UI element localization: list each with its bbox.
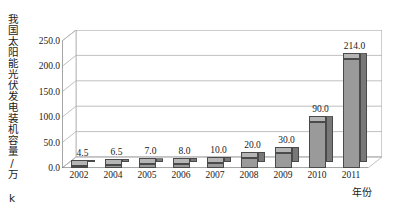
bar-front-face bbox=[71, 166, 88, 168]
bar bbox=[343, 59, 360, 168]
x-tick-label: 2008 bbox=[240, 170, 259, 180]
y-tick-label: 50.0 bbox=[20, 138, 60, 148]
bar-value-label: 214.0 bbox=[344, 41, 365, 51]
x-tick-label: 2011 bbox=[342, 170, 361, 180]
x-tick-label: 2007 bbox=[206, 170, 225, 180]
x-tick-label: 2010 bbox=[308, 170, 327, 180]
bar-side-face bbox=[360, 53, 368, 162]
bar-front-face bbox=[105, 165, 122, 168]
bar bbox=[173, 164, 190, 168]
bar-side-face bbox=[122, 159, 130, 162]
bar-side-face bbox=[292, 147, 300, 162]
bar-side-face bbox=[326, 116, 334, 162]
bar-value-label: 7.0 bbox=[145, 146, 157, 156]
x-tick-label: 2002 bbox=[70, 170, 89, 180]
bar bbox=[139, 164, 156, 168]
y-tick-label: 250.0 bbox=[20, 36, 60, 46]
bar-value-label: 30.0 bbox=[278, 135, 295, 145]
bar bbox=[105, 165, 122, 168]
bar-value-label: 10.0 bbox=[210, 145, 227, 155]
bar-value-label: 6.5 bbox=[111, 147, 123, 157]
y-tick-label: 100.0 bbox=[20, 112, 60, 122]
x-axis-tick-labels: 200220042005200620072008200920102011 bbox=[62, 170, 392, 184]
x-tick-label: 2006 bbox=[172, 170, 191, 180]
bar-series: 4.56.57.08.010.020.030.090.0214.0 bbox=[62, 30, 382, 168]
bar-side-face bbox=[224, 157, 232, 162]
bar-front-face bbox=[207, 163, 224, 168]
bar-side-face bbox=[156, 158, 164, 162]
y-axis-title: 我国太阳能光伏发电装机容量/万 kW bbox=[2, 14, 18, 190]
bar bbox=[207, 163, 224, 168]
bar-side-face bbox=[258, 152, 266, 162]
bar-front-face bbox=[139, 164, 156, 168]
x-tick-label: 2009 bbox=[274, 170, 293, 180]
bar-value-label: 90.0 bbox=[312, 104, 329, 114]
bar-front-face bbox=[309, 122, 326, 168]
chart-figure: 我国太阳能光伏发电装机容量/万 kW 0.050.0100.0150.0200.… bbox=[0, 0, 406, 204]
y-tick-label: 200.0 bbox=[20, 61, 60, 71]
bar bbox=[309, 122, 326, 168]
y-tick-label: 0.0 bbox=[20, 163, 60, 173]
x-axis-title: 年份 bbox=[352, 184, 372, 199]
bar-front-face bbox=[343, 59, 360, 168]
bar bbox=[71, 166, 88, 168]
bar-front-face bbox=[241, 158, 258, 168]
x-tick-label: 2004 bbox=[104, 170, 123, 180]
bar-value-label: 20.0 bbox=[244, 140, 261, 150]
bar-side-face bbox=[88, 160, 96, 162]
x-tick-label: 2005 bbox=[138, 170, 157, 180]
bar bbox=[241, 158, 258, 168]
bar-side-face bbox=[190, 158, 198, 162]
bar-value-label: 4.5 bbox=[77, 148, 89, 158]
plot-area: 4.56.57.08.010.020.030.090.0214.0 bbox=[62, 30, 382, 168]
bar bbox=[275, 153, 292, 168]
y-axis-tick-labels: 0.050.0100.0150.0200.0250.0 bbox=[18, 30, 60, 168]
bar-front-face bbox=[173, 164, 190, 168]
bar-value-label: 8.0 bbox=[179, 146, 191, 156]
bar-front-face bbox=[275, 153, 292, 168]
y-tick-label: 150.0 bbox=[20, 87, 60, 97]
